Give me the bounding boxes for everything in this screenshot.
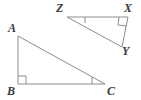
triangle-abc bbox=[18, 36, 105, 84]
vertex-label-c: C bbox=[107, 85, 115, 97]
vertex-label-z: Z bbox=[56, 2, 63, 14]
triangle-zxy bbox=[67, 17, 128, 47]
segment-xy bbox=[122, 17, 128, 47]
geometry-canvas bbox=[0, 0, 141, 100]
right-angle-square-b bbox=[18, 76, 26, 84]
segment-zy bbox=[67, 17, 122, 47]
vertex-label-y: Y bbox=[122, 45, 129, 57]
vertex-label-a: A bbox=[8, 22, 16, 34]
vertex-label-x: X bbox=[124, 2, 132, 14]
vertex-label-b: B bbox=[7, 85, 15, 97]
segment-ac bbox=[18, 36, 105, 84]
right-angle-square-x bbox=[118, 17, 126, 26]
geometry-figure: A B C Z X Y bbox=[0, 0, 141, 100]
